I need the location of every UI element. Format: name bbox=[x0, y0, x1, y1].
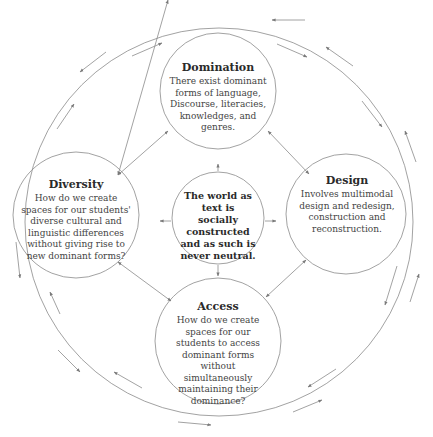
diversity-node: Diversity How do we create spaces for ou… bbox=[20, 178, 132, 262]
access-node: Access How do we create spaces for our s… bbox=[165, 300, 271, 407]
center-text: The world as text is socially constructe… bbox=[180, 190, 256, 262]
design-body: Involves multimodal design and redesign,… bbox=[293, 189, 401, 235]
diversity-title: Diversity bbox=[20, 178, 132, 191]
access-body: How do we create spaces for our students… bbox=[165, 315, 271, 407]
domination-body: There exist dominant forms of language, … bbox=[166, 76, 270, 134]
center-node: The world as text is socially constructe… bbox=[180, 190, 256, 262]
access-title: Access bbox=[165, 300, 271, 313]
design-node: Design Involves multimodal design and re… bbox=[293, 174, 401, 235]
diversity-body: How do we create spaces for our students… bbox=[20, 193, 132, 262]
design-title: Design bbox=[293, 174, 401, 187]
interdependent-literacy-model-diagram: Domination There exist dominant forms of… bbox=[0, 0, 433, 437]
domination-node: Domination There exist dominant forms of… bbox=[166, 61, 270, 134]
domination-title: Domination bbox=[166, 61, 270, 74]
